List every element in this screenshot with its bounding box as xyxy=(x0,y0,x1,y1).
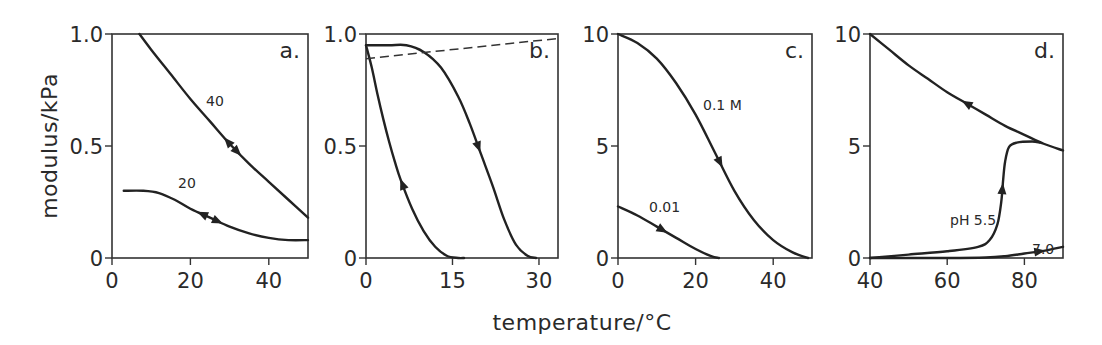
x-tick-label: 40 xyxy=(760,269,787,293)
direction-arrow xyxy=(472,140,480,152)
y-tick-label: 0 xyxy=(596,247,609,271)
panel-letter: c. xyxy=(785,38,804,63)
x-tick-label: 0 xyxy=(611,269,624,293)
curve-label: 7.0 xyxy=(1032,241,1054,257)
x-tick-label: 40 xyxy=(857,269,884,293)
y-tick-label: 1.0 xyxy=(70,23,103,47)
direction-arrow xyxy=(211,215,223,224)
panel-letter: b. xyxy=(529,38,550,63)
curve-label: pH 5.5 xyxy=(950,212,996,228)
x-tick-label: 20 xyxy=(177,269,204,293)
panel-d: 4060800510d.pH 5.57.0 xyxy=(834,23,1063,293)
y-tick-label: 0.5 xyxy=(324,135,357,159)
x-tick-label: 80 xyxy=(1011,269,1038,293)
y-tick-label: 5 xyxy=(848,135,861,159)
curve-label: 40 xyxy=(206,93,224,109)
series-line-ph-5-5 xyxy=(870,142,1040,258)
curve-label: 20 xyxy=(178,175,196,191)
x-tick-label: 60 xyxy=(934,269,961,293)
plot-frame xyxy=(618,34,812,258)
y-tick-label: 10 xyxy=(582,23,609,47)
y-tick-label: 0 xyxy=(90,247,103,271)
figure: modulus/kPa temperature/°C 0204000.51.0a… xyxy=(0,0,1102,345)
y-tick-label: 0.5 xyxy=(70,135,103,159)
series-line-0-1-m xyxy=(618,34,808,258)
y-tick-label: 0 xyxy=(344,247,357,271)
curve-label: 0.01 xyxy=(649,199,680,215)
panel-letter: d. xyxy=(1034,38,1055,63)
y-tick-label: 5 xyxy=(596,135,609,159)
panel-a: 0204000.51.0a.4020 xyxy=(70,23,308,293)
series-line-20 xyxy=(124,191,308,241)
plot-frame xyxy=(112,34,308,258)
y-tick-label: 0 xyxy=(848,247,861,271)
curve-label: 0.1 M xyxy=(703,97,742,113)
panel-c: 020400510c.0.1 M0.01 xyxy=(582,23,812,293)
panel-b: 0153000.51.0b. xyxy=(324,23,558,293)
x-tick-label: 20 xyxy=(682,269,709,293)
panel-letter: a. xyxy=(280,38,300,63)
y-axis-title: modulus/kPa xyxy=(37,73,62,219)
x-tick-label: 40 xyxy=(255,269,282,293)
x-tick-label: 15 xyxy=(439,269,466,293)
x-axis-title: temperature/°C xyxy=(492,310,671,335)
series-line-heating xyxy=(366,45,464,258)
x-tick-label: 0 xyxy=(105,269,118,293)
direction-arrow xyxy=(197,212,209,221)
x-tick-label: 30 xyxy=(526,269,553,293)
y-tick-label: 1.0 xyxy=(324,23,357,47)
direction-arrow xyxy=(400,179,408,191)
x-tick-label: 0 xyxy=(359,269,372,293)
y-tick-label: 10 xyxy=(834,23,861,47)
plot-frame xyxy=(366,34,558,258)
